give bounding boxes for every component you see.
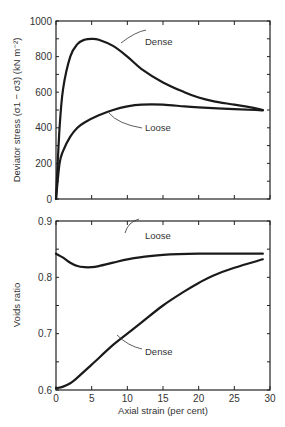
loose-annotation-bottom: Loose: [145, 230, 171, 241]
y-tick-label: 0.6: [38, 385, 52, 396]
x-tick-label: 0: [53, 393, 59, 404]
y-tick-label: 0.8: [38, 272, 52, 283]
dense-annotation: Dense: [145, 36, 172, 47]
loose-annotation: Loose: [145, 122, 171, 133]
y-axis-label-voids: Voids ratio: [11, 283, 22, 327]
y-axis-label-stress: Deviator stress (σ1 − σ3) (kN m⁻²): [11, 38, 22, 183]
series-loose-line: [56, 104, 263, 199]
y-tick-label: 400: [35, 122, 52, 133]
dense-annotation-bottom: Dense: [145, 346, 172, 357]
x-tick-label: 10: [122, 393, 134, 404]
y-tick-label: 0.9: [38, 216, 52, 227]
series-dense-line: [56, 259, 263, 388]
series-loose-line: [56, 254, 263, 268]
y-tick-label: 1000: [30, 16, 53, 27]
y-tick-label: 0: [46, 194, 52, 205]
x-tick-label: 30: [264, 393, 276, 404]
y-tick-label: 0.7: [38, 328, 52, 339]
x-axis-label: Axial strain (per cent): [118, 405, 208, 416]
x-tick-label: 5: [89, 393, 95, 404]
y-tick-label: 600: [35, 87, 52, 98]
x-tick-label: 20: [193, 393, 205, 404]
y-tick-label: 200: [35, 158, 52, 169]
x-tick-label: 25: [229, 393, 241, 404]
series-dense-line: [56, 39, 263, 199]
chart-canvas: 020040060080010000.60.70.80.905101520253…: [0, 0, 285, 427]
y-tick-label: 800: [35, 51, 52, 62]
x-tick-label: 15: [157, 393, 169, 404]
